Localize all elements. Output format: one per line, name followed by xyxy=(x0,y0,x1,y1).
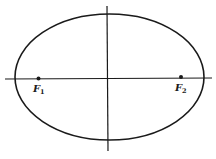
focus-point-f1 xyxy=(37,77,41,81)
focus-label-f1: F1 xyxy=(32,83,45,96)
focus-label-f2-subscript: 2 xyxy=(182,87,187,95)
focus-label-f1-subscript: 1 xyxy=(40,88,45,96)
ellipse-diagram: F1 F2 xyxy=(0,0,216,159)
ellipse-curve xyxy=(15,14,204,140)
focus-point-f2 xyxy=(179,75,183,79)
focus-label-f2: F2 xyxy=(174,82,187,95)
minor-axis-line xyxy=(107,6,108,151)
